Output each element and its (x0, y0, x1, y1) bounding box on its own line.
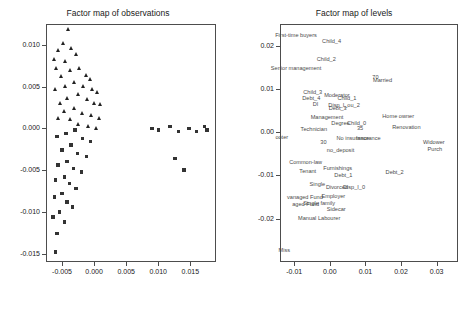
data-point-triangle (58, 101, 62, 105)
level-label: ooter (275, 134, 288, 140)
y-tick-mark (42, 45, 46, 46)
y-tick-mark (276, 89, 280, 90)
x-tick-mark (94, 262, 95, 266)
x-tick-label: 0.010 (142, 268, 174, 275)
data-point-triangle (86, 124, 90, 128)
level-label: Common-law (289, 159, 322, 165)
x-tick-mark (437, 262, 438, 266)
data-point-triangle (72, 80, 76, 84)
data-point-square (168, 125, 171, 128)
data-point-square (187, 127, 190, 130)
data-point-triangle (89, 113, 93, 117)
x-tick-label: 0.01 (349, 268, 381, 275)
data-point-square (81, 137, 84, 140)
y-tick-mark (42, 254, 46, 255)
level-label: Miss (279, 247, 291, 253)
level-label: Insurance (356, 135, 381, 141)
level-label: Child_1 (337, 95, 356, 101)
data-point-square (54, 250, 57, 253)
data-point-triangle (69, 46, 73, 50)
x-tick-mark (401, 262, 402, 266)
level-label: Married (373, 77, 392, 83)
y-tick-mark (42, 170, 46, 171)
data-point-triangle (61, 41, 65, 45)
data-point-triangle (76, 92, 80, 96)
data-point-triangle (53, 87, 57, 91)
level-label: Senior management (271, 65, 321, 71)
level-label: Technician (301, 126, 327, 132)
data-point-triangle (95, 90, 99, 94)
data-point-triangle (56, 116, 60, 120)
data-point-triangle (56, 48, 60, 52)
data-point-triangle (62, 109, 66, 113)
right-panel: Factor map of levels -0.010.000.010.020.… (236, 0, 472, 311)
x-tick-mark (158, 262, 159, 266)
data-point-square (182, 168, 185, 171)
level-label: Single (310, 181, 326, 187)
data-point-triangle (68, 68, 72, 72)
x-tick-mark (330, 262, 331, 266)
y-tick-mark (42, 212, 46, 213)
data-point-square (76, 152, 79, 155)
level-label: Debt_2 (386, 169, 404, 175)
data-point-square (150, 127, 153, 130)
data-point-square (54, 178, 57, 181)
level-label: Renovation (392, 124, 420, 130)
level-label: 35 (357, 125, 363, 131)
data-point-triangle (98, 102, 102, 106)
left-chart-title: Factor map of observations (0, 8, 236, 18)
level-label: Tenant (299, 168, 316, 174)
data-point-square (80, 170, 83, 173)
x-tick-label: 0.00 (314, 268, 346, 275)
data-point-square (56, 163, 59, 166)
level-label: Furnishings (323, 165, 352, 171)
y-tick-label: 0.000 (4, 124, 40, 131)
y-tick-mark (42, 128, 46, 129)
data-point-square (157, 128, 160, 131)
data-point-square (63, 220, 66, 223)
data-point-square (195, 130, 198, 133)
y-tick-label: -0.01 (238, 171, 274, 178)
data-point-triangle (97, 116, 101, 120)
y-tick-label: -0.005 (4, 166, 40, 173)
data-point-square (73, 128, 76, 131)
y-tick-mark (42, 87, 46, 88)
y-tick-label: -0.02 (238, 215, 274, 222)
data-point-square (51, 215, 54, 218)
data-point-square (89, 140, 92, 143)
level-label: Manual Labourer (298, 215, 340, 221)
chart-page: Factor map of observations -0.0050.0000.… (0, 0, 472, 311)
y-tick-mark (276, 219, 280, 220)
level-label: Child_2 (317, 56, 336, 62)
level-label: DI (313, 101, 319, 107)
data-point-triangle (88, 77, 92, 81)
data-point-square (55, 232, 58, 235)
x-tick-mark (126, 262, 127, 266)
right-chart-title: Factor map of levels (236, 8, 472, 18)
data-point-triangle (63, 59, 67, 63)
data-point-square (85, 155, 88, 158)
x-tick-mark (365, 262, 366, 266)
data-point-square (205, 128, 208, 131)
data-point-square (64, 132, 67, 135)
data-point-square (74, 187, 77, 190)
data-point-triangle (54, 66, 58, 70)
y-tick-label: 0.00 (238, 128, 274, 135)
data-point-square (65, 200, 68, 203)
y-tick-label: 0.01 (238, 85, 274, 92)
data-point-square (58, 210, 61, 213)
data-point-square (177, 130, 180, 133)
y-tick-mark (276, 175, 280, 176)
data-point-square (173, 157, 176, 160)
level-label: Home owner (382, 113, 414, 119)
data-point-triangle (52, 57, 56, 61)
level-label: Employer (322, 193, 346, 199)
left-panel: Factor map of observations -0.0050.0000.… (0, 0, 236, 311)
data-point-square (69, 143, 72, 146)
level-label: no_deposit (327, 147, 354, 153)
y-tick-label: -0.010 (4, 208, 40, 215)
data-point-triangle (85, 97, 89, 101)
x-tick-mark (294, 262, 295, 266)
level-label: Disp_I_0 (343, 184, 365, 190)
level-label: Child_4 (322, 38, 341, 44)
